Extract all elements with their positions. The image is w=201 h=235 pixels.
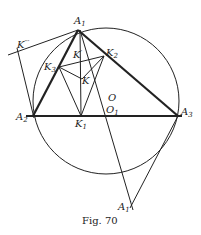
- label-a1-prime: A1′: [117, 200, 132, 214]
- label-a1: A1: [73, 15, 86, 28]
- label-k-prime: K′: [72, 49, 82, 60]
- label-k1: K1: [74, 118, 87, 131]
- line-a3-a1p: [130, 116, 178, 208]
- pedal-k3-k2: [59, 56, 104, 67]
- label-o: O: [108, 92, 116, 103]
- line-kppp-a2: [17, 48, 34, 118]
- figure-caption: Fig. 70: [82, 215, 118, 226]
- pedal-k3-k1: [59, 67, 81, 116]
- label-a2: A2: [15, 111, 28, 124]
- label-k: K: [81, 75, 90, 86]
- geometry-figure: A1 A2 A3 A1′ K K1 K2 K3 K′ K′′′ O O1 Fig…: [0, 0, 201, 235]
- line-k3-k: [59, 67, 82, 79]
- pedal-k2-k1: [81, 56, 104, 116]
- label-k3: K3: [43, 61, 56, 74]
- altitude-a1-k1: [80, 30, 81, 116]
